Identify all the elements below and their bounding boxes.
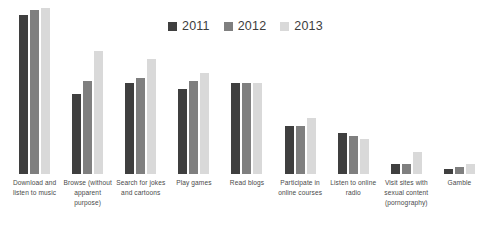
bar-group	[167, 8, 220, 174]
bar-2011	[178, 89, 187, 174]
bar-2011	[444, 169, 453, 174]
category-label: Play games	[167, 178, 220, 188]
bar-2012	[349, 136, 358, 174]
category-label: Download and listen to music	[8, 178, 61, 198]
bar-2013	[307, 118, 316, 174]
bar-group	[274, 8, 327, 174]
category-label: Listen to online radio	[327, 178, 380, 198]
category-label: Search for jokes and cartoons	[114, 178, 167, 198]
bar-group	[8, 8, 61, 174]
category-label: Browse (without apparent purpose)	[61, 178, 114, 209]
bar-2012	[455, 167, 464, 174]
bar-2011	[231, 83, 240, 174]
category-label: Read blogs	[220, 178, 273, 188]
bar-2012	[136, 78, 145, 174]
bar-2011	[125, 83, 134, 174]
bar-group	[61, 8, 114, 174]
plot-area	[8, 8, 486, 174]
bar-2011	[72, 94, 81, 174]
bar-group	[220, 8, 273, 174]
bar-2011	[391, 164, 400, 174]
category-label: Gamble	[433, 178, 486, 188]
bar-2012	[30, 10, 39, 174]
category-axis-labels: Download and listen to musicBrowse (with…	[8, 178, 486, 236]
bar-2013	[200, 73, 209, 174]
bar-2013	[466, 164, 475, 174]
bar-2012	[296, 126, 305, 174]
bar-2011	[338, 133, 347, 175]
bar-2012	[242, 83, 251, 174]
bar-group	[380, 8, 433, 174]
category-label: Visit sites with sexual content (pornogr…	[380, 178, 433, 209]
bar-2013	[413, 152, 422, 174]
category-label: Participate in online courses	[274, 178, 327, 198]
bar-2013	[253, 83, 262, 174]
bar-2013	[41, 8, 50, 174]
bar-2013	[147, 59, 156, 174]
bar-group	[433, 8, 486, 174]
bar-group	[327, 8, 380, 174]
bar-chart: 2011 2012 2013 Download and listen to mu…	[0, 0, 493, 237]
bar-2013	[360, 139, 369, 174]
bar-2012	[83, 81, 92, 174]
bar-group	[114, 8, 167, 174]
bar-2011	[285, 126, 294, 174]
bar-2011	[19, 15, 28, 174]
bar-2012	[189, 81, 198, 174]
bar-2012	[402, 164, 411, 174]
bar-2013	[94, 51, 103, 174]
